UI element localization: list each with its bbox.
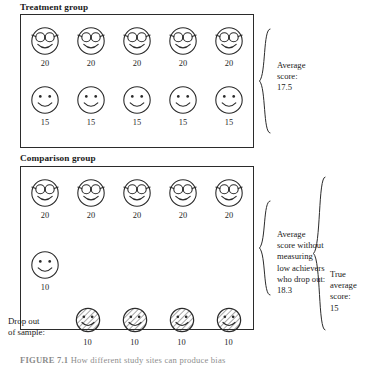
smiley-face-icon: [120, 83, 154, 117]
face-cell: 15: [68, 83, 114, 127]
glasses-face-icon: [74, 24, 108, 58]
face-cell: 10: [205, 305, 252, 347]
treatment-group-label: Treatment group: [20, 2, 88, 12]
comparison-group-label: Comparison group: [20, 153, 96, 163]
face-score-value: 10: [224, 339, 232, 347]
figure-caption: FIGURE 7.1 How different study sites can…: [20, 355, 370, 365]
hatched-face-icon: [214, 305, 244, 335]
face-score-value: 10: [130, 339, 138, 347]
face-score-value: 10: [83, 339, 91, 347]
treatment-brace-icon: [258, 28, 274, 134]
face-cell: 20: [114, 24, 160, 68]
smiley-face-icon: [212, 83, 246, 117]
figure-caption-text: How different study sites can produce bi…: [68, 355, 225, 365]
glasses-face-icon: [120, 24, 154, 58]
figure-caption-number: FIGURE 7.1: [20, 355, 68, 365]
glasses-face-icon: [74, 176, 108, 210]
glasses-face-icon: [28, 176, 62, 210]
treatment-smiley-face-row: 15 15 15 15 15: [22, 83, 252, 127]
smiley-face-icon: [74, 83, 108, 117]
face-score-value: 20: [225, 212, 233, 220]
face-score-value: 15: [225, 119, 233, 127]
face-score-value: 20: [41, 60, 49, 68]
face-cell: 20: [68, 24, 114, 68]
glasses-face-icon: [120, 176, 154, 210]
face-score-value: 20: [179, 212, 187, 220]
face-score-value: 10: [177, 339, 185, 347]
face-score-value: 20: [41, 212, 49, 220]
dropout-hatched-face-row: 10 10 10: [64, 305, 252, 347]
face-cell: 20: [114, 176, 160, 220]
face-score-value: 15: [179, 119, 187, 127]
comparison-brace-icon: [258, 200, 274, 296]
face-cell: 10: [158, 305, 205, 347]
face-cell: 15: [114, 83, 160, 127]
face-cell: 10: [64, 305, 111, 347]
glasses-face-icon: [212, 24, 246, 58]
face-cell: 15: [206, 83, 252, 127]
face-score-value: 20: [179, 60, 187, 68]
face-cell: 20: [160, 176, 206, 220]
face-score-value: 20: [133, 212, 141, 220]
face-score-value: 20: [225, 60, 233, 68]
figure-canvas: Treatment group 20 20: [0, 0, 374, 366]
true-average-brace-icon: [312, 176, 330, 331]
smiley-face-icon: [166, 83, 200, 117]
hatched-face-icon: [167, 305, 197, 335]
face-cell: 15: [22, 83, 68, 127]
comparison-glasses-face-row: 20 20 20 20: [22, 176, 252, 220]
glasses-face-icon: [212, 176, 246, 210]
hatched-face-icon: [120, 305, 150, 335]
face-cell: 20: [68, 176, 114, 220]
face-cell: 20: [22, 176, 68, 220]
face-score-value: 20: [133, 60, 141, 68]
glasses-face-icon: [28, 24, 62, 58]
face-score-value: 15: [87, 119, 95, 127]
face-score-value: 15: [133, 119, 141, 127]
face-cell: 15: [160, 83, 206, 127]
glasses-face-icon: [166, 24, 200, 58]
face-cell: 20: [22, 24, 68, 68]
face-score-value: 20: [87, 60, 95, 68]
smiley-face-icon: [28, 248, 62, 282]
treatment-average-annotation: Average score: 17.5: [277, 60, 337, 94]
face-score-value: 10: [41, 284, 49, 292]
true-average-annotation: True average score: 15: [330, 269, 372, 314]
glasses-face-icon: [166, 176, 200, 210]
face-cell: 20: [206, 176, 252, 220]
comparison-smiley-face-row: 10: [22, 248, 252, 292]
dropout-label: Drop out of sample:: [8, 316, 45, 339]
face-cell: 20: [206, 24, 252, 68]
smiley-face-icon: [28, 83, 62, 117]
face-cell: 20: [160, 24, 206, 68]
face-score-value: 20: [87, 212, 95, 220]
face-score-value: 15: [41, 119, 49, 127]
face-cell: 10: [22, 248, 68, 292]
treatment-glasses-face-row: 20 20 20 20: [22, 24, 252, 68]
hatched-face-icon: [73, 305, 103, 335]
face-cell: 10: [111, 305, 158, 347]
